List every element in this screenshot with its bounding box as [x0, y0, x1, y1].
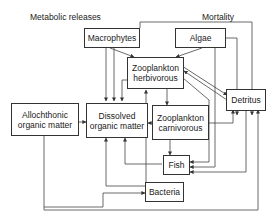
node-label: Zooplankton [157, 113, 204, 123]
node-label: Macrophytes [88, 33, 137, 43]
node-label: Dissolved [99, 111, 136, 121]
node-label: organic matter [90, 121, 144, 131]
node-fish: Fish [163, 155, 190, 175]
node-dissolved-organic-matter: Dissolved organic matter [86, 103, 148, 138]
node-bacteria: Bacteria [145, 182, 184, 202]
node-label: Detritus [231, 95, 260, 105]
node-algae: Algae [175, 28, 226, 48]
node-detritus: Detritus [226, 89, 266, 111]
node-label: Zooplankton [132, 63, 179, 73]
node-zooplankton-carnivorous: Zooplankton carnivorous [152, 105, 209, 140]
node-label: Algae [190, 33, 212, 43]
node-macrophytes: Macrophytes [84, 28, 140, 48]
node-zooplankton-herbivorous: Zooplankton herbivorous [127, 57, 184, 89]
node-allochthonic-organic-matter: Allochthonic organic matter [11, 103, 79, 136]
node-label: Bacteria [149, 187, 180, 197]
node-label: organic matter [18, 120, 72, 130]
node-label: carnivorous [159, 123, 203, 133]
metabolic-releases-label: Metabolic releases [30, 12, 101, 22]
node-label: herbivorous [133, 73, 177, 83]
node-label: Fish [168, 160, 184, 170]
node-label: Allochthonic [22, 110, 68, 120]
mortality-label: Mortality [202, 12, 234, 22]
